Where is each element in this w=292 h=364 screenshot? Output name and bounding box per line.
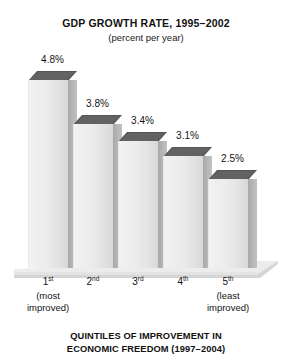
bar-side-face	[248, 179, 257, 268]
bar-front-face	[118, 141, 159, 268]
category-note-line2: improved)	[185, 302, 271, 314]
x-axis-title: QUINTILES OF IMPROVEMENT IN ECONOMIC FRE…	[0, 330, 292, 355]
plot-area: 4.8% 3.8% 3.4%	[0, 0, 292, 282]
bar-value-label: 2.5%	[208, 153, 257, 164]
category-axis-labels: 1st (most improved) 2nd 3rd 4th 5th (lea…	[0, 276, 292, 326]
x-axis-title-line1: QUINTILES OF IMPROVEMENT IN	[0, 330, 292, 343]
bar-front-face	[163, 156, 204, 268]
bar-value-label: 3.4%	[118, 115, 167, 126]
x-axis-title-line2: ECONOMIC FREEDOM (1997–2004)	[0, 343, 292, 356]
category-note-line1: (least	[185, 290, 271, 302]
bar-front-face	[208, 179, 249, 268]
category-note-line1: (most	[5, 290, 91, 302]
bar-quintile-2: 3.8%	[73, 115, 122, 268]
bar-quintile-3: 3.4%	[118, 132, 167, 268]
category-note-line2: improved)	[5, 302, 91, 314]
bar-quintile-4: 3.1%	[163, 147, 212, 268]
category-rank-5: 5th	[185, 276, 271, 288]
bar-quintile-5: 2.5%	[208, 170, 257, 268]
bar-value-label: 3.1%	[163, 130, 212, 141]
gdp-growth-bar-chart: GDP GROWTH RATE, 1995–2002 (percent per …	[0, 0, 292, 364]
bar-value-label: 4.8%	[28, 54, 77, 65]
category-label-5: 5th (least improved)	[185, 276, 271, 314]
bar-value-label: 3.8%	[73, 98, 122, 109]
bar-front-face	[28, 80, 69, 268]
bar-quintile-1: 4.8%	[28, 71, 77, 268]
category-rank-ordinal: th	[228, 275, 234, 282]
bar-front-face	[73, 124, 114, 268]
